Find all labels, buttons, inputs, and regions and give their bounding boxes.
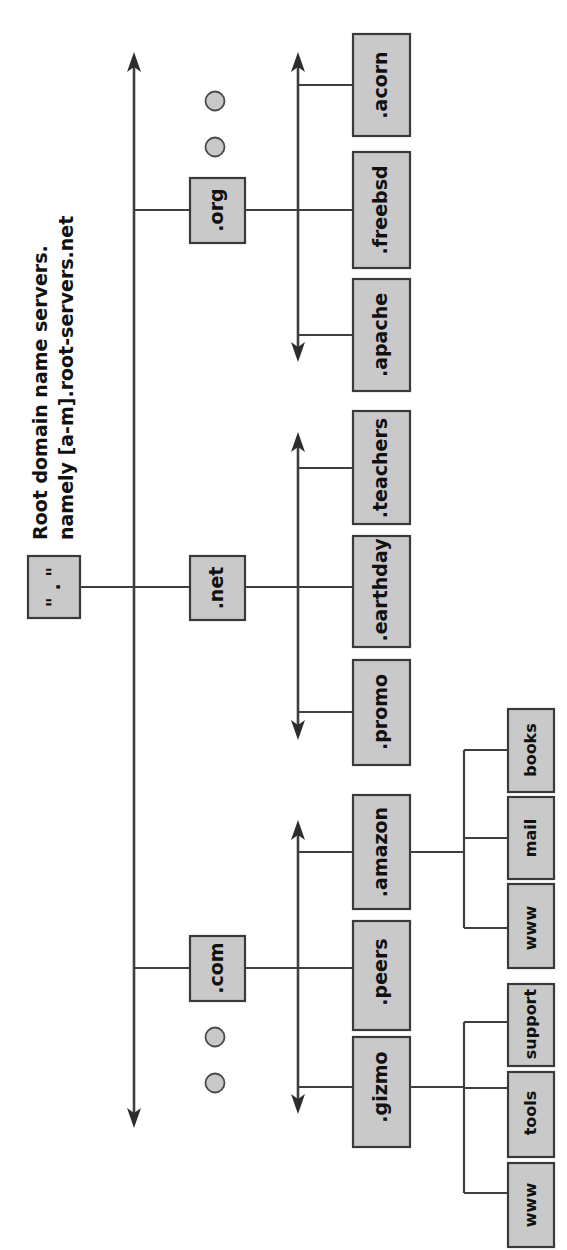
node-teachers-label: .teachers (369, 418, 391, 518)
node-org[interactable]: .org (190, 178, 245, 243)
node-gizmo-tools-label: tools (521, 1091, 540, 1136)
net-children-axis-group (245, 432, 353, 740)
node-amazon-mail-label: mail (521, 819, 540, 857)
node-gizmo-support[interactable]: support (508, 984, 554, 1066)
ellipsis-dot (206, 1074, 225, 1093)
node-amazon-www-label: www (521, 906, 540, 951)
node-earthday-label: .earthday (369, 538, 391, 642)
node-amazon[interactable]: .amazon (353, 795, 410, 909)
node-peers-label: .peers (369, 938, 391, 1005)
amazon-children-bracket-group (410, 750, 508, 928)
node-root-label: " . " (42, 567, 64, 607)
ellipsis-below-com (206, 1028, 225, 1093)
node-gizmo-www-label: www (521, 1183, 540, 1228)
node-apache-label: .apache (369, 293, 391, 377)
org-children-axis-group (245, 52, 353, 362)
node-peers[interactable]: .peers (353, 921, 410, 1030)
node-com[interactable]: .com (190, 936, 245, 1001)
node-gizmo-label: .gizmo (369, 1051, 391, 1122)
node-gizmo-support-label: support (521, 988, 540, 1059)
ellipsis-dot (206, 92, 225, 111)
gizmo-children-bracket-group (410, 1022, 508, 1193)
node-gizmo-www[interactable]: www (508, 1163, 554, 1247)
node-amazon-label: .amazon (369, 807, 391, 897)
node-teachers[interactable]: .teachers (353, 411, 410, 524)
root-axis-group (127, 52, 141, 1128)
annotation-line-1: Root domain name servers. (29, 245, 51, 540)
root-servers-annotation: Root domain name servers. namely [a-m].r… (29, 216, 77, 540)
node-amazon-mail[interactable]: mail (508, 797, 554, 879)
ellipsis-dot (206, 1028, 225, 1047)
node-gizmo[interactable]: .gizmo (353, 1037, 410, 1147)
node-amazon-books-label: books (521, 723, 540, 777)
ellipsis-dot (206, 138, 225, 157)
node-promo-label: .promo (369, 674, 391, 750)
node-root[interactable]: " . " (28, 556, 80, 618)
node-org-label: .org (205, 188, 227, 231)
node-amazon-www[interactable]: www (508, 884, 554, 968)
node-freebsd-label: .freebsd (369, 165, 391, 254)
annotation-line-2: namely [a-m].root-servers.net (55, 216, 77, 540)
ellipsis-above-org (206, 92, 225, 157)
dns-tree-canvas: " . " .org .net .com (0, 0, 567, 1250)
node-earthday[interactable]: .earthday (353, 536, 410, 647)
node-net[interactable]: .net (190, 556, 245, 620)
dns-hierarchy-diagram: " . " .org .net .com (0, 0, 567, 1250)
node-amazon-books[interactable]: books (508, 709, 554, 792)
node-acorn[interactable]: .acorn (353, 34, 410, 136)
node-gizmo-tools[interactable]: tools (508, 1072, 554, 1157)
node-net-label: .net (205, 567, 227, 610)
com-children-axis-group (245, 820, 353, 1114)
node-com-label: .com (205, 942, 227, 993)
node-apache[interactable]: .apache (353, 279, 410, 391)
node-promo[interactable]: .promo (353, 660, 410, 765)
node-freebsd[interactable]: .freebsd (353, 152, 410, 268)
node-acorn-label: .acorn (369, 51, 391, 118)
